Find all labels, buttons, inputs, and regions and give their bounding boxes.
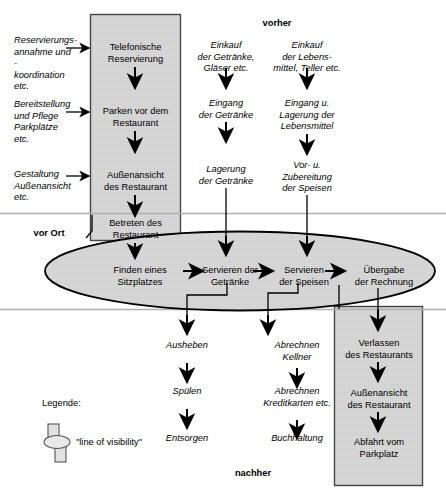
legend-caption: "line of visibility" [76,437,142,447]
after-guest-item-3: Abfahrt vom Parkplatz [332,437,426,460]
food-item-3: Vor- u. Zubereitung der Speisen [262,160,352,195]
drinks-item-2: Eingang der Getränke [182,98,270,121]
drinks-item-1: Einkauf der Getränke, Gläser etc. [182,40,270,75]
after-wash-item-3: Entsorgen [147,433,227,445]
after-wash-item-2: Spülen [147,386,227,398]
after-guest-item-2: Außenansicht des Restaurant [332,388,426,411]
onstage-item-2: Parken vor dem Restaurant [88,106,183,129]
title-vorher: vorher [232,18,322,30]
line-of-visibility-symbol [44,424,70,462]
food-item-1: Einkauf der Lebens- mittel, Teller etc. [258,40,356,75]
support-item-1: Reservierungs- annahme und - koordinatio… [14,35,76,93]
food-item-2: Eingang u. Lagerung der Lebensmittel [262,98,352,133]
after-billing-item-3: Buchhaltung [252,433,342,445]
after-wash-item-1: Ausheben [147,340,227,352]
onsite-item-1: Finden eines Sitzplatzes [96,265,184,288]
title-nachher: nachher [208,468,298,480]
onsite-item-2: Servieren der Getränke [186,265,274,288]
legend-heading: Legende: [42,398,81,408]
onsite-item-4: Übergabe der Rechnung [338,265,430,288]
onstage-item-4: Betreten des Restaurant [90,218,181,241]
label-vor-ort: vor Ort [18,228,80,240]
after-billing-item-1: Abrechnen Kellner [252,340,342,363]
onsite-item-3: Servieren der Speisen [262,265,346,288]
onstage-item-1: Telefonische Reservierung [90,42,181,65]
support-item-3: Gestaltung Außenansicht etc. [14,169,80,204]
support-item-2: Bereitstellung und Pflege Parkplätze etc… [14,99,76,145]
drinks-item-3: Lagerung der Getränke [182,164,270,187]
after-guest-item-1: Verlassen des Restaurants [332,338,426,361]
onstage-item-3: Außenansicht des Restaurant [88,170,183,193]
